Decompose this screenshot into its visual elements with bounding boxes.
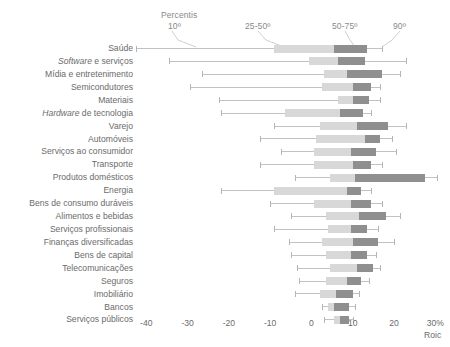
axis-tick: -40 [140,318,152,328]
axis-tick: 20 [389,318,399,328]
axis-tick: 10 [348,318,358,328]
boxplot-row [0,0,450,347]
axis-name-label: Roic [424,330,441,340]
axis-tick: -20 [223,318,235,328]
roic-boxplot-chart: Percentis 10º 25-50º 50-75º 90º SaúdeSof… [0,0,450,347]
axis-tick: -10 [264,318,276,328]
axis-tick: 0 [309,318,314,328]
whisker-cap-low [324,317,325,323]
axis-tick: -30 [181,318,193,328]
axis-tick: 30% [427,318,444,328]
whisker-low [324,319,334,320]
